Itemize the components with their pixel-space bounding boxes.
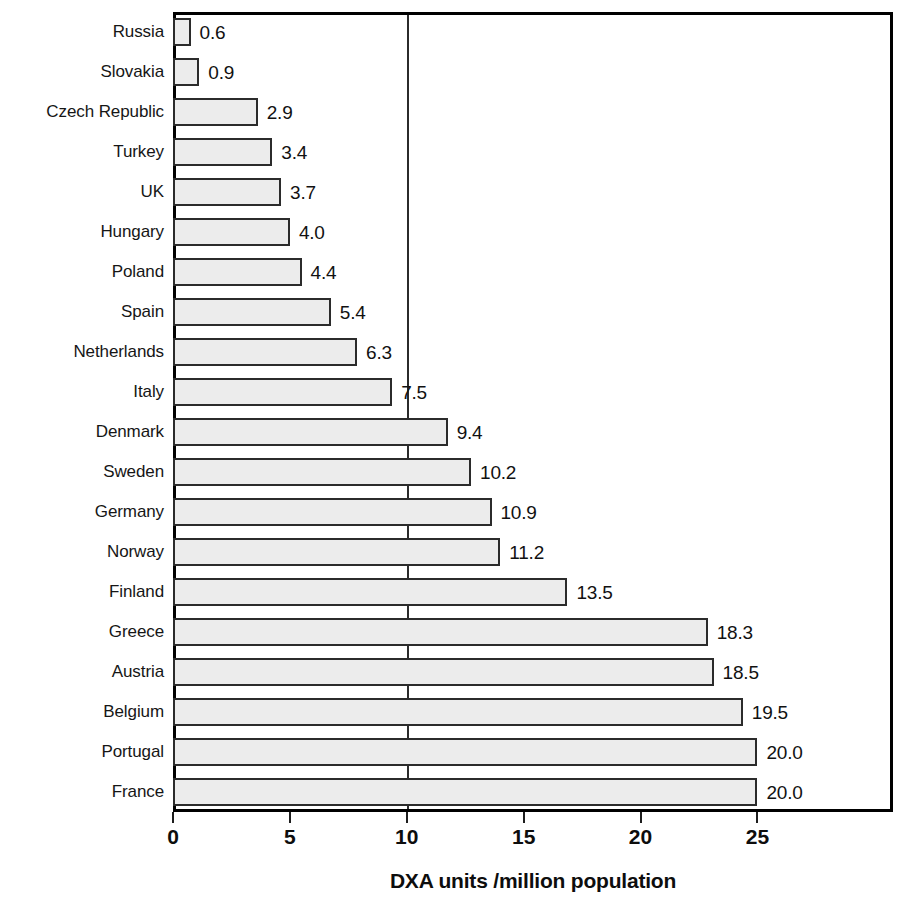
category-label: Greece [109,623,164,640]
bar-row: 20.0 [173,778,893,806]
category-label: Russia [113,23,164,40]
category-label: Poland [112,263,164,280]
bar [173,138,272,166]
category-label: Spain [121,303,164,320]
bar-row: 7.5 [173,378,893,406]
bar-value-label: 3.4 [281,143,307,162]
bar-value-label: 7.5 [401,383,427,402]
x-tick-mark [640,812,642,823]
x-axis-title: DXA units /million population [173,869,893,893]
bar-value-label: 18.5 [723,663,759,682]
x-tick-mark [406,812,408,823]
bar-value-label: 6.3 [366,343,392,362]
bar-value-label: 0.6 [200,23,226,42]
bar [173,738,757,766]
category-label: Norway [107,543,164,560]
bar-row: 11.2 [173,538,893,566]
category-label: Denmark [96,423,164,440]
bar-row: 5.4 [173,298,893,326]
category-label: Austria [112,663,164,680]
bar-row: 10.9 [173,498,893,526]
bar-row: 3.4 [173,138,893,166]
x-tick-label: 5 [284,826,296,847]
bar [173,338,357,366]
bar [173,778,757,806]
bar [173,498,492,526]
category-label: Netherlands [73,343,164,360]
category-label: UK [141,183,164,200]
bar-row: 10.2 [173,458,893,486]
bar-row: 0.9 [173,58,893,86]
category-label: Hungary [100,223,164,240]
bar-row: 20.0 [173,738,893,766]
x-tick-mark [172,812,174,823]
bar [173,18,191,46]
bar-value-label: 5.4 [340,303,366,322]
bar-row: 18.3 [173,618,893,646]
bar-row: 19.5 [173,698,893,726]
bar [173,178,281,206]
bar-value-label: 13.5 [576,583,612,602]
x-tick-mark [523,812,525,823]
bar-row: 13.5 [173,578,893,606]
x-tick-label: 25 [746,826,769,847]
bar-value-label: 11.2 [509,543,544,562]
category-label: Turkey [113,143,164,160]
bar [173,218,290,246]
category-label: Italy [133,383,164,400]
bar [173,658,714,686]
category-label: Germany [95,503,164,520]
bar-row: 6.3 [173,338,893,366]
bar-value-label: 4.0 [299,223,325,242]
bar-value-label: 10.9 [501,503,537,522]
bar-value-label: 18.3 [717,623,753,642]
bar [173,418,448,446]
category-label: Portugal [101,743,164,760]
category-label: Finland [109,583,164,600]
bar-value-label: 0.9 [208,63,234,82]
bar-chart: RussiaSlovakiaCzech RepublicTurkeyUKHung… [0,0,904,914]
bar [173,618,708,646]
bar [173,538,500,566]
x-tick-label: 0 [167,826,179,847]
x-axis: 0510152025 [173,812,893,862]
x-tick-label: 20 [629,826,652,847]
category-label: Belgium [103,703,164,720]
plot-area: 0.60.92.93.43.74.04.45.46.37.59.410.210.… [173,12,893,812]
bar-row: 4.0 [173,218,893,246]
x-tick-mark [289,812,291,823]
bar-row: 4.4 [173,258,893,286]
bar-row: 18.5 [173,658,893,686]
bar-value-label: 2.9 [267,103,293,122]
category-label: Slovakia [101,63,164,80]
bar [173,458,471,486]
bar [173,58,199,86]
bar-value-label: 10.2 [480,463,516,482]
bar-value-label: 4.4 [311,263,337,282]
x-tick-label: 15 [512,826,535,847]
bar-row: 2.9 [173,98,893,126]
plot-inner: 0.60.92.93.43.74.04.45.46.37.59.410.210.… [176,15,890,809]
bar-row: 0.6 [173,18,893,46]
category-axis: RussiaSlovakiaCzech RepublicTurkeyUKHung… [0,12,170,812]
category-label: Sweden [103,463,164,480]
x-tick-mark [756,812,758,823]
gridline-10 [407,15,409,809]
bar [173,98,258,126]
category-label: France [112,783,164,800]
bar-value-label: 9.4 [457,423,483,442]
bar [173,298,331,326]
bar-row: 3.7 [173,178,893,206]
x-tick-label: 10 [395,826,418,847]
bar-value-label: 20.0 [766,743,802,762]
bar-row: 9.4 [173,418,893,446]
category-label: Czech Republic [46,103,164,120]
bar [173,578,567,606]
bar [173,378,392,406]
bar-value-label: 3.7 [290,183,316,202]
bar [173,258,302,286]
bar-value-label: 19.5 [752,703,788,722]
bar-value-label: 20.0 [766,783,802,802]
bar [173,698,743,726]
